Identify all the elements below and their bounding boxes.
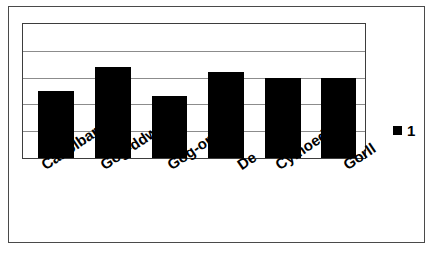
x-axis-labels: CanolbarthGog-ddwyGog-orllDeCymoeddGorll bbox=[22, 159, 366, 243]
bar-gorll bbox=[321, 78, 357, 158]
chart-legend: 1 bbox=[393, 123, 415, 138]
legend-label-series-1: 1 bbox=[407, 123, 415, 138]
legend-swatch-series-1 bbox=[393, 126, 402, 135]
chart-figure: CanolbarthGog-ddwyGog-orllDeCymoeddGorll… bbox=[8, 6, 425, 243]
